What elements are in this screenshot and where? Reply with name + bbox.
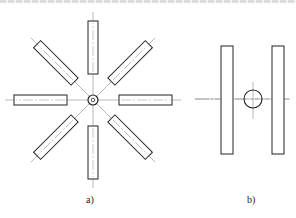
arm bbox=[88, 12, 98, 100]
panel-a-label: a) bbox=[86, 194, 94, 205]
arm-bar-axis bbox=[113, 46, 148, 81]
panel-b-label: b) bbox=[247, 194, 255, 205]
arm-bar-axis bbox=[39, 120, 74, 155]
arm-bar-axis bbox=[113, 120, 148, 155]
arm bbox=[27, 96, 96, 165]
arm bbox=[89, 96, 158, 165]
arm-bar-axis bbox=[39, 46, 74, 81]
mechanical-diagram bbox=[0, 0, 296, 218]
arm bbox=[89, 34, 158, 103]
arm bbox=[27, 34, 96, 103]
arm bbox=[5, 95, 93, 105]
arm bbox=[88, 100, 98, 188]
panel-a-radial-arrangement bbox=[5, 12, 181, 188]
panel-b-parallel-arrangement bbox=[195, 46, 290, 154]
vertical-bar bbox=[272, 46, 284, 154]
hub-circle bbox=[88, 95, 98, 105]
arm bbox=[93, 95, 181, 105]
vertical-bar bbox=[221, 46, 233, 154]
